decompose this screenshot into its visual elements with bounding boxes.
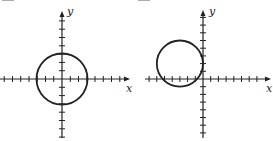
x-axis-label: x	[126, 83, 132, 94]
y-axis-arrow-icon	[201, 10, 206, 16]
coordinate-plane-left	[0, 0, 137, 141]
coordinate-plane-right	[136, 0, 273, 141]
y-axis-label: y	[209, 6, 215, 17]
x-axis-label: x	[266, 83, 272, 94]
graph-right: y x	[136, 0, 273, 141]
y-axis-arrow-icon	[60, 11, 65, 17]
x-axis-arrow-icon	[265, 77, 271, 82]
x-axis-arrow-icon	[124, 77, 130, 82]
graph-left: y x	[0, 0, 137, 141]
y-axis-label: y	[67, 6, 73, 17]
